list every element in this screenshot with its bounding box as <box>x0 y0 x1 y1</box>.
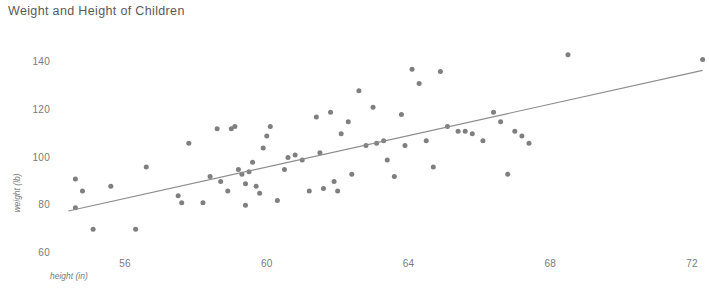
data-point <box>250 160 255 165</box>
data-point <box>275 198 280 203</box>
data-point <box>218 179 223 184</box>
data-point <box>208 174 213 179</box>
scatter-plot-canvas <box>0 0 709 292</box>
data-point <box>491 110 496 115</box>
data-point <box>144 165 149 170</box>
data-point <box>402 143 407 148</box>
data-point <box>286 155 291 160</box>
data-point <box>349 172 354 177</box>
data-point <box>456 129 461 134</box>
chart-container: Weight and Height of Children 6080100120… <box>0 0 709 292</box>
x-axis-tick-label: 68 <box>530 258 570 269</box>
data-point <box>176 193 181 198</box>
data-point <box>498 119 503 124</box>
data-point <box>328 110 333 115</box>
x-axis-tick-label: 64 <box>389 258 429 269</box>
data-point <box>307 188 312 193</box>
data-point <box>339 131 344 136</box>
data-point <box>179 200 184 205</box>
y-axis-tick-label: 80 <box>0 199 50 210</box>
data-point <box>371 105 376 110</box>
data-point <box>463 129 468 134</box>
x-axis-title: height (in) <box>50 271 88 281</box>
x-axis-tick-label: 60 <box>247 258 287 269</box>
data-point <box>243 203 248 208</box>
data-point <box>565 52 570 57</box>
data-point <box>356 88 361 93</box>
data-points-group <box>73 52 705 231</box>
data-point <box>700 57 705 62</box>
data-point <box>108 184 113 189</box>
data-point <box>91 227 96 232</box>
data-point <box>480 138 485 143</box>
x-axis-tick-label: 72 <box>672 258 709 269</box>
data-point <box>335 188 340 193</box>
data-point <box>417 81 422 86</box>
y-axis-title: weight (lb) <box>12 162 22 224</box>
data-point <box>332 179 337 184</box>
data-point <box>438 69 443 74</box>
data-point <box>243 181 248 186</box>
data-point <box>225 188 230 193</box>
data-point <box>236 167 241 172</box>
data-point <box>261 145 266 150</box>
data-point <box>232 124 237 129</box>
data-point <box>80 188 85 193</box>
x-axis-tick-label: 56 <box>105 258 145 269</box>
data-point <box>133 227 138 232</box>
data-point <box>431 165 436 170</box>
data-point <box>470 131 475 136</box>
data-point <box>268 124 273 129</box>
data-point <box>519 134 524 139</box>
data-point <box>200 200 205 205</box>
data-point <box>526 141 531 146</box>
y-axis-tick-label: 120 <box>0 104 50 115</box>
data-point <box>392 174 397 179</box>
data-point <box>293 153 298 158</box>
y-axis-tick-label: 140 <box>0 56 50 67</box>
data-point <box>73 176 78 181</box>
data-point <box>254 184 259 189</box>
trendline <box>68 70 702 211</box>
data-point <box>346 119 351 124</box>
data-point <box>385 157 390 162</box>
data-point <box>399 112 404 117</box>
data-point <box>512 129 517 134</box>
data-point <box>264 134 269 139</box>
data-point <box>282 167 287 172</box>
data-point <box>186 141 191 146</box>
data-point <box>424 138 429 143</box>
data-point <box>257 191 262 196</box>
data-point <box>314 114 319 119</box>
data-point <box>505 172 510 177</box>
y-axis-tick-label: 100 <box>0 152 50 163</box>
y-axis-tick-label: 60 <box>0 247 50 258</box>
data-point <box>215 126 220 131</box>
data-point <box>410 67 415 72</box>
data-point <box>321 186 326 191</box>
